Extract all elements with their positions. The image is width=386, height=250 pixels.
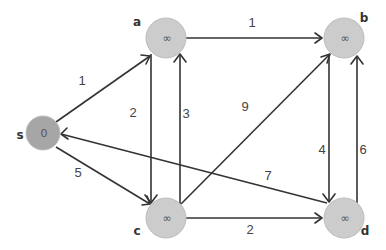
edge-weight-s-c: 5 (74, 165, 81, 180)
edge-a-c: 2 (129, 54, 157, 203)
edge-weight-a-c: 2 (129, 105, 136, 120)
edge-weight-c-b: 9 (241, 99, 248, 114)
edge-d-b: 6 (351, 56, 367, 205)
node-value-b: ∞ (340, 32, 349, 45)
edge-weight-d-s: 7 (264, 168, 271, 183)
graph-diagram: 1 5 1 2 3 9 (0, 0, 386, 250)
node-label-s: s (16, 128, 23, 142)
node-value-s: 0 (41, 127, 48, 140)
edge-c-b: 9 (181, 54, 330, 204)
node-label-b: b (360, 11, 369, 25)
edge-b-d: 4 (318, 54, 335, 202)
node-value-d: ∞ (340, 212, 349, 225)
node-value-a: ∞ (162, 32, 171, 45)
node-a: ∞ a (133, 15, 186, 58)
nodes: 0 s ∞ a ∞ b ∞ c ∞ d (16, 11, 369, 238)
edge-s-c: 5 (56, 147, 150, 205)
node-value-c: ∞ (162, 212, 171, 225)
edge-weight-c-d: 2 (246, 222, 253, 237)
edge-c-a: 3 (174, 54, 190, 205)
edge-weight-b-d: 4 (318, 142, 325, 157)
edge-c-d: 2 (186, 213, 322, 237)
node-label-c: c (133, 224, 140, 238)
edges: 1 5 1 2 3 9 (56, 15, 367, 237)
edge-weight-c-a: 3 (182, 106, 189, 121)
edge-weight-a-b: 1 (248, 15, 255, 30)
node-s: 0 s (16, 116, 60, 150)
node-c: ∞ c (133, 198, 186, 238)
node-label-a: a (133, 15, 141, 29)
edge-a-b: 1 (186, 15, 322, 44)
node-b: ∞ b (324, 11, 369, 58)
edge-weight-d-b: 6 (359, 142, 366, 157)
arrowhead-icon (61, 128, 68, 139)
node-d: ∞ d (324, 198, 369, 238)
node-label-d: d (361, 224, 370, 238)
edge-weight-s-a: 1 (78, 73, 85, 88)
